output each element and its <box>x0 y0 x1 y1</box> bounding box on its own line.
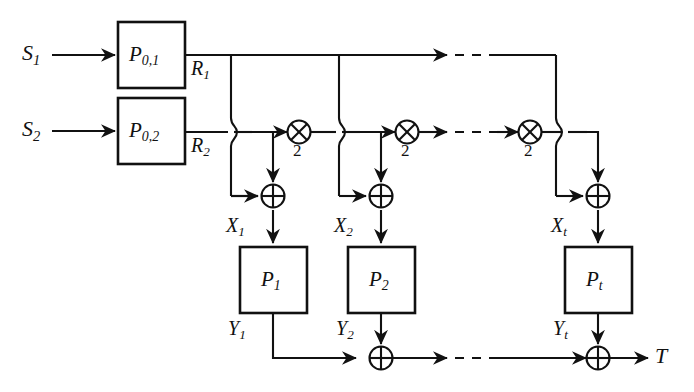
block-p02-label: P0,2 <box>129 120 159 144</box>
xor-upper-t <box>587 185 610 208</box>
wire-r1-tap1 <box>231 55 237 196</box>
signal-x2-label: X2 <box>334 215 353 238</box>
output-t-label: T <box>655 345 667 367</box>
signal-x1-label: X1 <box>226 215 245 238</box>
xor-lower-t <box>587 347 610 370</box>
wire-r1-tapt <box>556 55 562 196</box>
signal-y1-label: Y1 <box>228 318 246 341</box>
multiplier-1-factor: 2 <box>293 142 302 159</box>
xor-upper-1 <box>262 185 285 208</box>
xor-lower-2 <box>370 347 393 370</box>
multiplier-2-factor: 2 <box>401 142 410 159</box>
block-p01-label: P0,1 <box>129 44 159 68</box>
signal-yt-label: Yt <box>553 318 568 341</box>
wire-r1-label: R1 <box>191 58 210 81</box>
input-s2-label: S2 <box>22 118 40 143</box>
block-p1-label: P1 <box>261 269 281 293</box>
block-pt-label: Pt <box>586 269 603 293</box>
signal-y2-label: Y2 <box>336 318 354 341</box>
multiplier-t-factor: 2 <box>524 142 533 159</box>
wire-multt-down <box>587 132 598 182</box>
block-p2-label: P2 <box>369 269 389 293</box>
input-s1-label: S1 <box>22 42 40 67</box>
diagram-canvas: S1 S2 P0,1 P0,2 R1 R2 2 2 2 X1 X2 Xt P1 … <box>0 0 694 392</box>
wire-r2-label: R2 <box>191 135 210 158</box>
xor-upper-2 <box>370 185 393 208</box>
wire-r1-tap2 <box>339 55 345 196</box>
signal-xt-label: Xt <box>551 215 567 238</box>
